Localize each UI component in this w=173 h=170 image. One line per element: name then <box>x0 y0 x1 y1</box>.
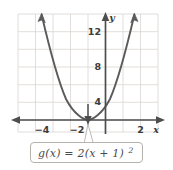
x-tick-label-2: 2 <box>137 124 144 135</box>
equation-callout: g(x) = 2(x + 1) 2 <box>31 143 143 163</box>
x-tick-label-neg4: −4 <box>35 124 50 135</box>
equation-exponent: 2 <box>128 146 134 155</box>
y-tick-label-12: 12 <box>88 26 101 37</box>
x-tick-label-neg2: −2 <box>70 124 85 135</box>
equation-text: g(x) = 2(x + 1) <box>38 147 124 160</box>
parabola-graph: −4 −2 2 4 8 12 x y g(x) = 2(x + 1) 2 <box>0 0 173 170</box>
figure-canvas: −4 −2 2 4 8 12 x y g(x) = 2(x + 1) 2 <box>0 0 173 170</box>
x-axis-label: x <box>152 124 159 135</box>
y-tick-label-4: 4 <box>94 96 101 107</box>
y-tick-label-8: 8 <box>94 61 101 72</box>
